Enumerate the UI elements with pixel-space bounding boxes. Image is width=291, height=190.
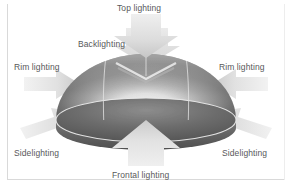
label-rim-lighting-left: Rim lighting <box>14 62 60 72</box>
lighting-scene <box>0 0 291 190</box>
label-top-lighting: Top lighting <box>117 3 161 13</box>
label-backlighting: Backlighting <box>78 39 125 49</box>
label-rim-lighting-right: Rim lighting <box>219 62 265 72</box>
label-sidelighting-left: Sidelighting <box>14 148 59 158</box>
label-frontal-lighting: Frontal lighting <box>112 170 169 180</box>
label-sidelighting-right: Sidelighting <box>222 148 267 158</box>
lighting-diagram-figure: Top lighting Backlighting Rim lighting R… <box>0 0 291 190</box>
